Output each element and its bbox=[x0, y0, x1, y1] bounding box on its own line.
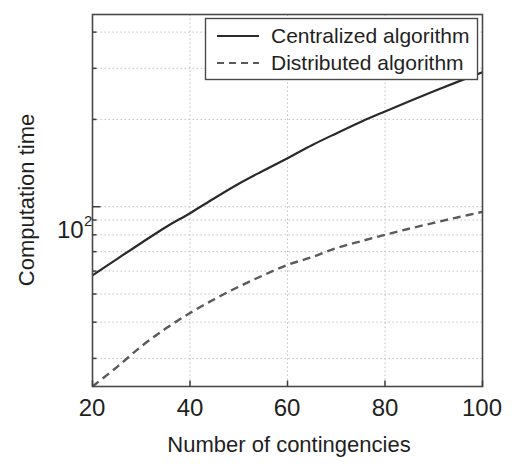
x-axis-title: Number of contingencies bbox=[167, 432, 410, 457]
legend: Centralized algorithm Distributed algori… bbox=[206, 19, 478, 80]
legend-label-distributed: Distributed algorithm bbox=[271, 51, 464, 74]
x-axis-tick-labels: 20 40 60 80 100 bbox=[79, 394, 502, 421]
figure-container: 20 40 60 80 100 10 2 Number of contingen… bbox=[0, 0, 525, 469]
y-tick-base: 10 bbox=[57, 216, 84, 243]
x-tick-label-3: 80 bbox=[372, 394, 399, 421]
axis-ticks bbox=[93, 32, 483, 386]
y-axis-tick-marks bbox=[93, 32, 101, 358]
legend-label-centralized: Centralized algorithm bbox=[271, 24, 469, 47]
x-tick-label-0: 20 bbox=[79, 394, 106, 421]
line-chart: 20 40 60 80 100 10 2 Number of contingen… bbox=[0, 0, 525, 469]
x-tick-label-2: 60 bbox=[274, 394, 301, 421]
x-tick-label-1: 40 bbox=[177, 394, 204, 421]
y-axis-title: Computation time bbox=[14, 114, 39, 286]
x-tick-label-4: 100 bbox=[462, 394, 502, 421]
y-axis-tick-label-100: 10 2 bbox=[57, 212, 92, 243]
y-tick-exponent: 2 bbox=[84, 212, 92, 229]
x-axis-tick-marks bbox=[93, 381, 483, 387]
